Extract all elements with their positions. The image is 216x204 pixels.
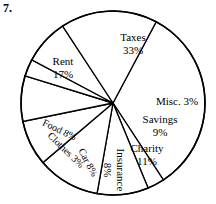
- slice-label-line: 8%: [103, 163, 115, 178]
- slice-label-line: Misc. 3%: [156, 95, 198, 107]
- slice-label-line: Insurance: [116, 149, 128, 192]
- pie-chart-svg: Taxes33%Misc. 3%Savings9%Charity11%Insur…: [0, 0, 216, 204]
- slice-label-line: Charity: [131, 141, 164, 153]
- slice-label-line: Savings: [143, 112, 178, 124]
- slice-label-line: Rent: [53, 54, 74, 66]
- slice-label-line: 9%: [153, 125, 168, 137]
- slice-label-line: 17%: [53, 67, 73, 79]
- pie-chart-page: 7. Taxes33%Misc. 3%Savings9%Charity11%In…: [0, 0, 216, 204]
- slice-label-line: 33%: [123, 43, 143, 55]
- slice-label-misc: Misc. 3%: [156, 95, 198, 107]
- slice-label-taxes: Taxes33%: [120, 30, 146, 55]
- slice-label-rent: Rent17%: [53, 54, 74, 79]
- slice-label-line: Taxes: [120, 30, 146, 42]
- pie-chart: Taxes33%Misc. 3%Savings9%Charity11%Insur…: [0, 0, 216, 204]
- slice-label-line: 11%: [137, 154, 157, 166]
